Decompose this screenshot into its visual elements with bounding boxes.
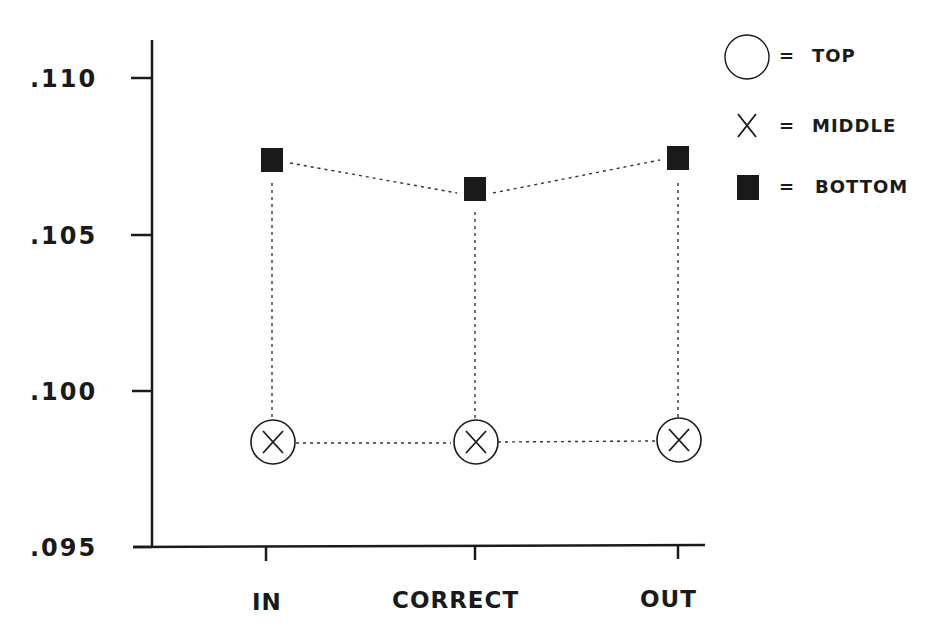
svg-text:BOTTOM: BOTTOM bbox=[815, 176, 908, 197]
x-icon bbox=[738, 114, 756, 137]
top-middle-marker-correct bbox=[454, 420, 498, 464]
x-category-label: CORRECT bbox=[392, 587, 519, 613]
svg-text:=: = bbox=[779, 115, 795, 136]
y-tick-label: .105 bbox=[30, 222, 97, 250]
y-tick-label: .095 bbox=[30, 534, 97, 562]
bottom-marker-in bbox=[261, 148, 283, 172]
bottom-marker-out bbox=[667, 146, 689, 170]
top-middle-marker-in bbox=[251, 420, 295, 464]
y-tick-label: .100 bbox=[30, 378, 97, 406]
y-tick-label: .110 bbox=[30, 65, 97, 93]
x-axis bbox=[133, 545, 705, 547]
circle-icon bbox=[725, 35, 769, 79]
chart: .110 .105 .100 .095 IN CORRECT OUT bbox=[0, 0, 933, 642]
svg-text:=: = bbox=[779, 176, 795, 197]
svg-text:=: = bbox=[779, 45, 795, 66]
x-category-label: OUT bbox=[640, 586, 697, 612]
legend-item-top: = TOP bbox=[725, 35, 856, 79]
svg-text:MIDDLE: MIDDLE bbox=[812, 115, 896, 136]
top-middle-marker-out bbox=[657, 418, 701, 462]
legend-item-middle: = MIDDLE bbox=[738, 114, 896, 137]
y-ticks bbox=[131, 78, 152, 547]
bottom-marker-correct bbox=[464, 177, 486, 201]
legend-item-bottom: = BOTTOM bbox=[737, 175, 908, 200]
legend: = TOP = MIDDLE = BOTTOM bbox=[725, 35, 908, 200]
drop-lines bbox=[272, 183, 678, 420]
square-icon bbox=[737, 175, 759, 200]
svg-text:TOP: TOP bbox=[812, 45, 856, 66]
x-category-label: IN bbox=[252, 589, 282, 615]
